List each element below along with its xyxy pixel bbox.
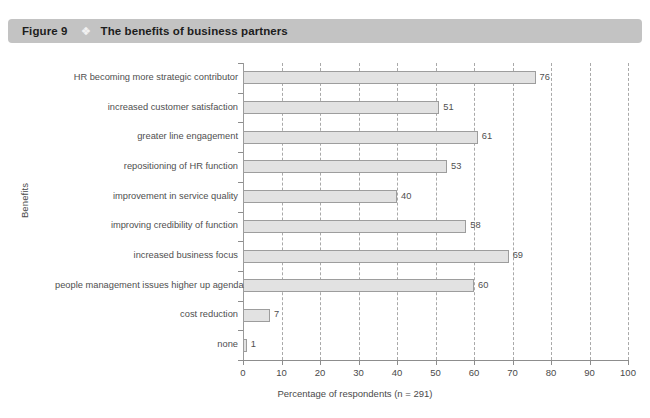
bar [243, 279, 474, 292]
figure-number: Figure 9 [22, 25, 68, 37]
bar-value-label: 51 [443, 102, 453, 112]
bar-value-label: 7 [274, 309, 279, 319]
x-tick-label-100: 100 [608, 367, 648, 378]
bar [243, 339, 247, 352]
x-axis-title: Percentage of respondents (n = 291) [0, 388, 650, 399]
category-label: people management issues higher up agend… [55, 280, 238, 290]
bar [243, 71, 536, 84]
category-label: improvement in service quality [55, 191, 238, 201]
diamond-bullet-icon: ❖ [81, 26, 91, 37]
y-tick [238, 241, 243, 242]
y-tick [238, 360, 243, 361]
x-tick-80 [551, 361, 552, 365]
x-tick-30 [359, 361, 360, 365]
bar [243, 220, 466, 233]
y-tick [238, 271, 243, 272]
bar [243, 309, 270, 322]
category-label: greater line engagement [55, 131, 238, 141]
x-tick-60 [474, 361, 475, 365]
y-tick [238, 122, 243, 123]
x-tick-50 [436, 361, 437, 365]
figure-title: The benefits of business partners [101, 25, 288, 37]
bar [243, 131, 478, 144]
category-label: HR becoming more strategic contributor [55, 72, 238, 82]
category-label: improving credibility of function [55, 220, 238, 230]
category-label: increased customer satisfaction [55, 102, 238, 112]
bar [243, 250, 509, 263]
y-tick [238, 301, 243, 302]
y-tick [238, 212, 243, 213]
x-tick-label-70: 70 [493, 367, 533, 378]
bar-value-label: 40 [401, 191, 411, 201]
x-tick-10 [282, 361, 283, 365]
bar [243, 160, 447, 173]
x-tick-label-20: 20 [300, 367, 340, 378]
x-tick-label-0: 0 [223, 367, 263, 378]
bar-value-label: 53 [451, 161, 461, 171]
x-tick-label-10: 10 [262, 367, 302, 378]
x-tick-label-40: 40 [377, 367, 417, 378]
gridline-70 [513, 63, 514, 360]
x-tick-20 [320, 361, 321, 365]
bar-value-label: 60 [478, 280, 488, 290]
x-tick-label-30: 30 [339, 367, 379, 378]
gridline-100 [628, 63, 629, 360]
bar-value-label: 1 [251, 339, 256, 349]
y-tick [238, 93, 243, 94]
category-label: cost reduction [55, 309, 238, 319]
y-tick [238, 330, 243, 331]
bar-chart: Benefits 765161534058696071 010203040506… [0, 55, 650, 418]
gridline-90 [590, 63, 591, 360]
x-tick-0 [243, 361, 244, 365]
bar [243, 101, 439, 114]
category-label: repositioning of HR function [55, 161, 238, 171]
category-label: none [55, 339, 238, 349]
category-label: increased business focus [55, 250, 238, 260]
x-tick-90 [590, 361, 591, 365]
plot-area: 765161534058696071 [243, 63, 628, 360]
x-tick-40 [397, 361, 398, 365]
figure-header-bar: Figure 9 ❖ The benefits of business part… [8, 19, 642, 43]
x-tick-100 [628, 361, 629, 365]
x-tick-label-80: 80 [531, 367, 571, 378]
bar-value-label: 69 [513, 250, 523, 260]
x-tick-label-90: 90 [570, 367, 610, 378]
x-tick-70 [513, 361, 514, 365]
gridline-60 [474, 63, 475, 360]
bar-value-label: 58 [470, 220, 480, 230]
bar [243, 190, 397, 203]
bar-value-label: 61 [482, 131, 492, 141]
y-axis-title: Benefits [19, 171, 30, 231]
y-tick [238, 63, 243, 64]
y-tick [238, 182, 243, 183]
x-tick-label-50: 50 [416, 367, 456, 378]
bar-value-label: 76 [540, 72, 550, 82]
gridline-80 [551, 63, 552, 360]
x-tick-label-60: 60 [454, 367, 494, 378]
y-tick [238, 152, 243, 153]
